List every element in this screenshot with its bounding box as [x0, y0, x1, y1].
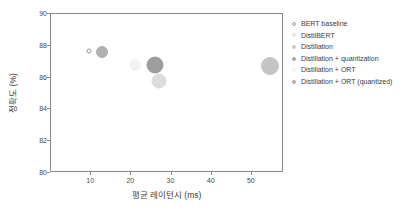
x-tick-label: 30: [167, 177, 175, 184]
data-point: [152, 73, 167, 88]
legend-item-label: Distillation: [301, 41, 333, 53]
data-point: [261, 57, 279, 75]
legend-item[interactable]: Distillation + ORT: [289, 64, 403, 76]
x-tick-mark: [211, 172, 212, 175]
y-tick-label: 90: [27, 10, 47, 17]
legend-marker-icon: [289, 42, 299, 52]
legend-item[interactable]: BERT baseline: [289, 18, 403, 30]
legend-marker-icon: [289, 77, 299, 87]
legend-item[interactable]: Distillation + ORT (quantized): [289, 76, 403, 88]
x-axis-title: 평균 레이턴시 (ms): [50, 188, 283, 200]
data-point: [96, 46, 108, 58]
legend-item[interactable]: DistilBERT: [289, 30, 403, 42]
y-tick-label: 80: [27, 169, 47, 176]
legend-item[interactable]: Distillation + quantization: [289, 53, 403, 65]
legend-marker-icon: [289, 30, 299, 40]
legend-item-label: Distillation + ORT: [301, 64, 356, 76]
legend-marker-icon: [289, 19, 299, 29]
x-tick-mark: [90, 172, 91, 175]
x-tick-mark: [130, 172, 131, 175]
x-tick-label: 20: [126, 177, 134, 184]
bubble-chart-figure: 808284868890 1020304050 평균 레이턴시 (ms) 정확도…: [0, 0, 404, 213]
legend-marker-icon: [289, 65, 299, 75]
y-tick-label: 86: [27, 73, 47, 80]
legend-item-label: DistilBERT: [301, 30, 335, 42]
x-tick-label: 10: [86, 177, 94, 184]
data-point: [129, 59, 141, 71]
chart-legend: BERT baselineDistilBERTDistillationDisti…: [289, 18, 403, 88]
legend-item-label: BERT baseline: [301, 18, 347, 30]
y-tick-label: 84: [27, 105, 47, 112]
y-tick-mark: [47, 172, 50, 173]
y-axis-title: 정확도 (%): [6, 73, 18, 113]
legend-item[interactable]: Distillation: [289, 41, 403, 53]
data-point: [87, 48, 92, 53]
legend-marker-icon: [289, 54, 299, 64]
y-tick-label: 82: [27, 137, 47, 144]
data-point: [147, 56, 164, 73]
y-tick-label: 88: [27, 41, 47, 48]
x-tick-mark: [251, 172, 252, 175]
x-tick-label: 50: [247, 177, 255, 184]
legend-item-label: Distillation + ORT (quantized): [301, 76, 392, 88]
plot-area: [50, 13, 283, 172]
legend-item-label: Distillation + quantization: [301, 53, 379, 65]
x-tick-label: 40: [207, 177, 215, 184]
data-points-layer: [51, 14, 282, 171]
x-tick-mark: [171, 172, 172, 175]
